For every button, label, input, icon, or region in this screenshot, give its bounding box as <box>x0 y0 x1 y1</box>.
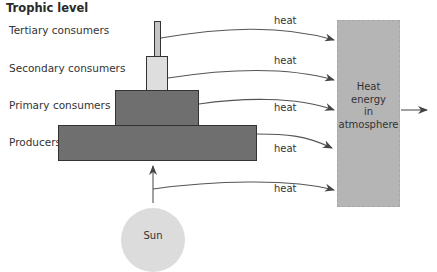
sun: Sun <box>121 208 185 272</box>
heat-arrow-secondary <box>168 71 334 80</box>
sun-label: Sun <box>121 230 185 241</box>
heat-arrow-sun <box>153 182 334 190</box>
heat-arrow-tertiary <box>161 29 334 40</box>
heat-arrow-primary <box>199 99 334 110</box>
heat-arrow-producers <box>257 134 332 148</box>
